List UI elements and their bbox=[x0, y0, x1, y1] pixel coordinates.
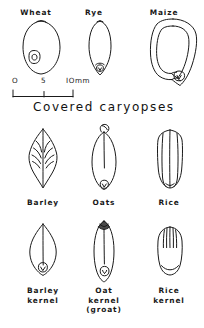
label-rice-kernel-line1: Rice bbox=[158, 286, 179, 295]
label-oat-kernel-line3: (groat) bbox=[86, 305, 122, 314]
label-oat-kernel-line1: Oat bbox=[95, 286, 113, 295]
label-oat-kernel-line2: kernel bbox=[88, 296, 120, 305]
barley-kernel-drawing bbox=[24, 222, 62, 282]
label-wheat: Wheat bbox=[8, 8, 64, 17]
label-oat-kernel: Oat kernel (groat) bbox=[74, 286, 134, 315]
scale-label-zero: O bbox=[12, 76, 18, 85]
label-barley: Barley bbox=[12, 198, 74, 207]
label-oats: Oats bbox=[74, 198, 134, 207]
scale-label-mid: 5 bbox=[41, 76, 46, 85]
barley-grain-drawing bbox=[24, 127, 62, 191]
rice-grain-drawing bbox=[152, 128, 188, 190]
maize-grain-drawing bbox=[146, 17, 200, 89]
label-rye: Rye bbox=[70, 8, 118, 17]
label-barley-kernel: Barley kernel bbox=[12, 286, 74, 305]
label-barley-kernel-line2: kernel bbox=[27, 296, 59, 305]
label-rice-kernel-line2: kernel bbox=[153, 296, 185, 305]
oat-kernel-drawing bbox=[88, 219, 120, 285]
rice-kernel-drawing bbox=[153, 225, 187, 279]
wheat-grain-drawing bbox=[19, 19, 65, 77]
cereal-grain-plate: Wheat Rye Maize O bbox=[0, 0, 204, 328]
label-rice-kernel: Rice kernel bbox=[140, 286, 198, 305]
scale-label-max: IOmm bbox=[66, 76, 90, 85]
oat-grain-drawing bbox=[85, 122, 123, 194]
label-rice: Rice bbox=[140, 198, 198, 207]
label-maize: Maize bbox=[134, 8, 194, 17]
label-barley-kernel-line1: Barley bbox=[27, 286, 59, 295]
section-heading-covered-caryopses: Covered caryopses bbox=[33, 100, 175, 114]
rye-grain-drawing bbox=[84, 19, 116, 79]
